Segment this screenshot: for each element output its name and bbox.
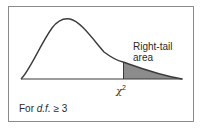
- df-prefix: For: [19, 103, 37, 114]
- df-condition: ≥ 3: [51, 103, 68, 114]
- tail-label-line1: Right-tail: [133, 41, 172, 52]
- degrees-of-freedom-note: For d.f. ≥ 3: [19, 103, 67, 114]
- chi-exponent: 2: [122, 84, 126, 91]
- tail-label-line2: area: [133, 52, 172, 63]
- df-variable: d.f.: [37, 103, 51, 114]
- right-tail-area-label: Right-tail area: [133, 41, 172, 63]
- chi-square-critical-label: χ2: [116, 82, 126, 96]
